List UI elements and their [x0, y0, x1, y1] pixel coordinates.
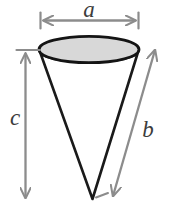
dimension-b-extension-bottom: [96, 193, 108, 198]
diagram-canvas: a c b: [0, 0, 173, 203]
dimension-a-label: a: [83, 0, 95, 22]
dimension-b-label: b: [142, 117, 154, 142]
cone-dimension-diagram: a c b: [0, 0, 173, 203]
dimension-a: a: [41, 0, 139, 29]
dimension-c: c: [10, 50, 40, 198]
cone-top-face: [39, 36, 139, 62]
dimension-c-label: c: [10, 105, 20, 130]
cone-body-outline: [40, 51, 139, 200]
